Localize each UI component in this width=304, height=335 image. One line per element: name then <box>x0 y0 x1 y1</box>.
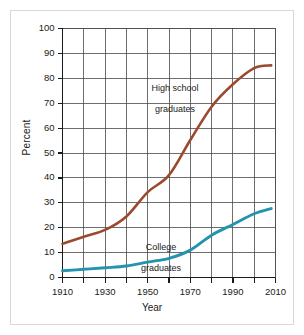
x-axis-title: Year <box>0 302 304 313</box>
chart-figure: 0102030405060708090100 19101930195019701… <box>0 0 304 335</box>
series-label-college: College graduates <box>128 231 194 284</box>
y-axis-tick-label: 100 <box>25 22 55 33</box>
y-axis-tick-label: 0 <box>25 271 55 282</box>
series-label-high-school-line2: graduates <box>140 104 210 115</box>
x-axis-tick-label: 2010 <box>256 286 296 297</box>
y-axis-tick-label: 70 <box>25 97 55 108</box>
x-axis-tick-label: 1950 <box>128 286 168 297</box>
series-label-college-line1: College <box>128 242 194 253</box>
y-axis-tick-label: 20 <box>25 221 55 232</box>
x-axis-tick-label: 1910 <box>43 286 83 297</box>
x-axis-tick-label: 1990 <box>213 286 253 297</box>
series-label-college-line2: graduates <box>128 263 194 274</box>
y-axis-title: Percent <box>21 108 32 168</box>
series-label-high-school-line1: High school <box>140 83 210 94</box>
series-label-high-school: High school graduates <box>140 72 210 125</box>
x-axis-tick-label: 1930 <box>85 286 125 297</box>
y-axis-tick-label: 90 <box>25 47 55 58</box>
y-axis-tick-label: 40 <box>25 171 55 182</box>
x-axis-tick-label: 1970 <box>170 286 210 297</box>
y-axis-tick-label: 30 <box>25 196 55 207</box>
y-axis-tick-label: 80 <box>25 72 55 83</box>
y-axis-tick-label: 10 <box>25 246 55 257</box>
